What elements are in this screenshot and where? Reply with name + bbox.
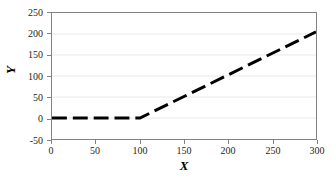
x-tick-label: 250: [253, 146, 293, 156]
y-tick-label: 100: [17, 72, 43, 82]
data-series-line: [52, 13, 316, 139]
y-tick-label: 200: [17, 29, 43, 39]
x-axis-title: X: [51, 158, 317, 174]
x-tick-label: 300: [297, 146, 333, 156]
x-tick-mark: [317, 140, 318, 144]
x-tick-label: 0: [31, 146, 71, 156]
x-tick-label: 50: [75, 146, 115, 156]
y-tick-label: 0: [17, 114, 43, 124]
x-tick-mark: [228, 140, 229, 144]
y-tick-label: 150: [17, 50, 43, 60]
y-tick-label: 250: [17, 8, 43, 18]
chart-figure: Y 250 200 150 100 50 0 -50 0 50 100 150 …: [0, 0, 333, 179]
y-tick-label: -50: [17, 136, 43, 146]
plot-area: [51, 12, 317, 140]
x-tick-mark: [51, 140, 52, 144]
x-tick-mark: [273, 140, 274, 144]
x-tick-mark: [140, 140, 141, 144]
y-tick-label: 50: [17, 93, 43, 103]
x-tick-mark: [184, 140, 185, 144]
x-tick-mark: [95, 140, 96, 144]
x-tick-label: 200: [208, 146, 248, 156]
x-tick-label: 150: [164, 146, 204, 156]
x-tick-label: 100: [120, 146, 160, 156]
